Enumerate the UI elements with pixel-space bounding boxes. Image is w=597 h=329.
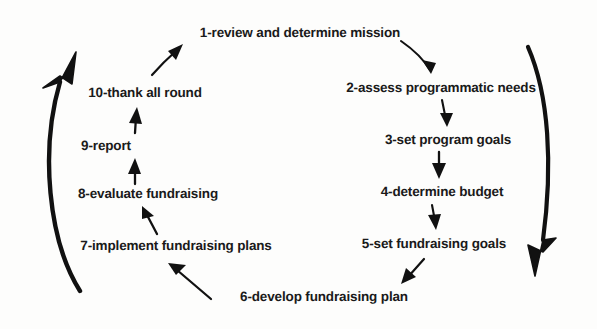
node-label-step-5[interactable]: 5-set fundraising goals xyxy=(362,237,506,251)
arrow-8-to-9 xyxy=(128,158,141,184)
node-label-step-1[interactable]: 1-review and determine mission xyxy=(200,26,400,40)
diagram-canvas: 1-review and determine mission 2-assess … xyxy=(0,0,597,329)
node-label-step-6[interactable]: 6-develop fundraising plan xyxy=(240,290,408,304)
arrow-1-to-2 xyxy=(401,41,436,74)
arrow-9-to-10 xyxy=(129,107,142,133)
node-label-step-8[interactable]: 8-evaluate fundraising xyxy=(78,187,218,201)
node-label-step-2[interactable]: 2-assess programmatic needs xyxy=(346,81,536,95)
arrow-3-to-4 xyxy=(432,152,446,179)
arrow-5-to-6 xyxy=(401,259,424,284)
node-label-step-4[interactable]: 4-determine budget xyxy=(381,185,504,199)
arrow-2-to-3 xyxy=(440,100,453,127)
node-label-step-9[interactable]: 9-report xyxy=(81,139,131,153)
node-label-step-3[interactable]: 3-set program goals xyxy=(385,133,511,147)
node-label-step-7[interactable]: 7-implement fundraising plans xyxy=(80,239,271,253)
arrow-4-to-5 xyxy=(428,205,441,230)
arrow-7-to-8 xyxy=(142,206,157,234)
diagram-arrows xyxy=(0,0,597,329)
arrow-6-to-7 xyxy=(168,263,211,299)
arc-left-ascending xyxy=(43,52,80,291)
node-label-step-10[interactable]: 10-thank all round xyxy=(88,86,202,100)
arrow-10-to-1 xyxy=(152,44,183,75)
